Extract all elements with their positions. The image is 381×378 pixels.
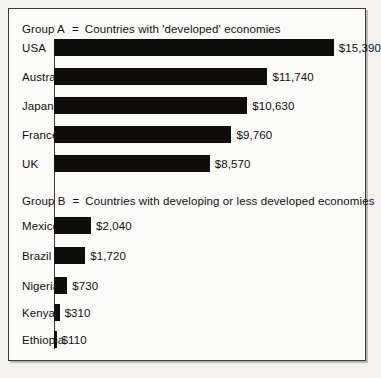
bar-nigeria bbox=[54, 277, 67, 294]
bar-row: Kenya$310 bbox=[9, 302, 365, 324]
bar-value-usa: $15,390 bbox=[339, 42, 381, 54]
bar-label-usa: USA bbox=[22, 42, 46, 54]
bar-label-japan: Japan bbox=[22, 100, 54, 112]
bar-row: France$9,760 bbox=[9, 124, 365, 146]
bar-japan bbox=[54, 97, 247, 114]
bar-value-nigeria: $730 bbox=[72, 280, 98, 292]
group-b-name: Group B bbox=[22, 195, 66, 207]
bar-label-kenya: Kenya bbox=[22, 307, 55, 319]
group-b-equals: = bbox=[66, 195, 86, 207]
bar-value-france: $9,760 bbox=[236, 129, 272, 141]
bar-track: $8,570 bbox=[54, 153, 361, 175]
bar-row: USA$15,390 bbox=[9, 37, 365, 59]
bar-track: $10,630 bbox=[54, 95, 361, 117]
bar-row: Brazil$1,720 bbox=[9, 245, 365, 267]
bar-track: $2,040 bbox=[54, 215, 361, 237]
group-a-description: Countries with 'developed' economies bbox=[85, 23, 281, 35]
bar-row: Mexico$2,040 bbox=[9, 215, 365, 237]
bar-track: $730 bbox=[54, 275, 361, 297]
bar-row: UK$8,570 bbox=[9, 153, 365, 175]
bar-france bbox=[54, 126, 231, 143]
bar-label-france: France bbox=[22, 129, 58, 141]
bar-label-uk: UK bbox=[22, 158, 38, 170]
group-b-header: Group B=Countries with developing or les… bbox=[22, 195, 375, 207]
bar-value-kenya: $310 bbox=[65, 307, 91, 319]
group-a-header: Group A=Countries with 'developed' econo… bbox=[22, 23, 281, 35]
bar-row: Ethiopia$110 bbox=[9, 329, 365, 351]
bar-track: $11,740 bbox=[54, 66, 361, 88]
bar-value-brazil: $1,720 bbox=[90, 250, 126, 262]
bar-value-australia: $11,740 bbox=[272, 71, 313, 83]
bar-track: $9,760 bbox=[54, 124, 361, 146]
group-b-description: Countries with developing or less develo… bbox=[85, 195, 374, 207]
bar-value-ethiopia: $110 bbox=[62, 334, 87, 346]
bar-ethiopia bbox=[54, 331, 57, 348]
chart-figure: Group A=Countries with 'developed' econo… bbox=[8, 8, 366, 361]
bar-track: $15,390 bbox=[54, 37, 361, 59]
bar-row: Nigeria$730 bbox=[9, 275, 365, 297]
bar-label-brazil: Brazil bbox=[22, 250, 51, 262]
bar-value-japan: $10,630 bbox=[252, 100, 294, 112]
bar-row: Australia$11,740 bbox=[9, 66, 365, 88]
group-a-name: Group A bbox=[22, 23, 65, 35]
bar-value-uk: $8,570 bbox=[215, 158, 251, 170]
bar-track: $310 bbox=[54, 302, 361, 324]
bar-uk bbox=[54, 155, 210, 172]
bar-row: Japan$10,630 bbox=[9, 95, 365, 117]
bar-mexico bbox=[54, 217, 91, 234]
bar-value-mexico: $2,040 bbox=[96, 220, 132, 232]
bar-brazil bbox=[54, 247, 85, 264]
bar-usa bbox=[54, 39, 334, 56]
bar-kenya bbox=[54, 304, 60, 321]
bar-track: $110 bbox=[54, 329, 361, 351]
group-a-equals: = bbox=[65, 23, 85, 35]
bar-australia bbox=[54, 68, 267, 85]
bar-track: $1,720 bbox=[54, 245, 361, 267]
